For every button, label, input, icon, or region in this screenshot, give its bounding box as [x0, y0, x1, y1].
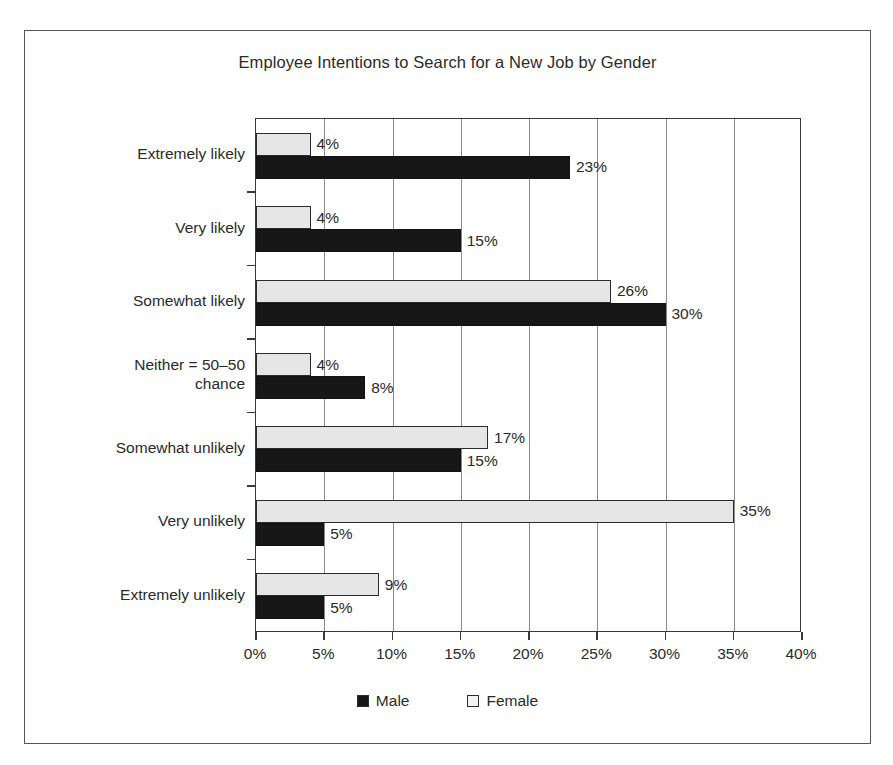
legend-swatch-icon: [467, 695, 479, 707]
gridline: [393, 119, 394, 631]
y-axis-category-label: Extremely likely: [30, 145, 245, 164]
bar-value-label-female: 4%: [317, 357, 339, 373]
bar-female: [256, 206, 311, 229]
x-axis-tick: [392, 632, 394, 640]
y-axis-tick: [247, 485, 255, 487]
chart-figure: Employee Intentions to Search for a New …: [0, 0, 893, 765]
x-axis-ticks: [255, 632, 801, 642]
y-axis-category-label: Extremely unlikely: [30, 586, 245, 605]
x-axis-tick: [528, 632, 530, 640]
x-axis-tick-label: 35%: [717, 645, 748, 663]
legend-label: Male: [376, 692, 410, 710]
bar-male: [256, 229, 461, 252]
bar-value-label-female: 4%: [317, 210, 339, 226]
bar-value-label-female: 26%: [617, 283, 648, 299]
bar-female: [256, 133, 311, 156]
bar-value-label-female: 35%: [740, 503, 771, 519]
bar-value-label-male: 8%: [371, 380, 393, 396]
y-axis-category-label: Somewhat unlikely: [30, 439, 245, 458]
x-axis-tick-label: 0%: [244, 645, 266, 663]
gridline: [597, 119, 598, 631]
x-axis-tick-label: 40%: [785, 645, 816, 663]
y-axis-tick: [247, 265, 255, 267]
plot-area: 4%23%4%15%26%30%4%8%17%15%35%5%9%5%: [255, 118, 801, 632]
y-axis-ticks: [255, 118, 256, 632]
y-axis-category-label: Somewhat likely: [30, 292, 245, 311]
bar-male: [256, 376, 365, 399]
x-axis-tick-labels: 0%5%10%15%20%25%30%35%40%: [255, 645, 801, 669]
bar-female: [256, 573, 379, 596]
x-axis-tick-label: 30%: [649, 645, 680, 663]
gridline: [324, 119, 325, 631]
y-axis-category-label: Very likely: [30, 219, 245, 238]
bar-male: [256, 156, 570, 179]
bar-value-label-female: 9%: [385, 577, 407, 593]
gridline: [461, 119, 462, 631]
gridline: [666, 119, 667, 631]
legend-label: Female: [486, 692, 538, 710]
bar-value-label-male: 30%: [672, 306, 703, 322]
bar-value-label-female: 4%: [317, 136, 339, 152]
y-axis-category-label: Very unlikely: [30, 512, 245, 531]
bar-value-label-male: 15%: [467, 233, 498, 249]
x-axis-tick: [733, 632, 735, 640]
bar-value-label-male: 15%: [467, 453, 498, 469]
bar-female: [256, 426, 488, 449]
x-axis-tick: [596, 632, 598, 640]
chart-legend: MaleFemale: [24, 688, 871, 714]
bar-value-label-male: 5%: [330, 600, 352, 616]
legend-swatch-icon: [357, 695, 369, 707]
x-axis-tick: [255, 632, 257, 640]
y-axis-category-label: Neither = 50–50chance: [30, 356, 245, 394]
bar-male: [256, 523, 324, 546]
bar-female: [256, 353, 311, 376]
x-axis-tick: [801, 632, 803, 640]
y-axis-category-labels: Extremely likelyVery likelySomewhat like…: [28, 118, 245, 632]
gridline: [734, 119, 735, 631]
y-axis-tick: [247, 559, 255, 561]
x-axis-tick: [460, 632, 462, 640]
bar-value-label-female: 17%: [494, 430, 525, 446]
y-axis-tick: [247, 191, 255, 193]
bar-male: [256, 596, 324, 619]
x-axis-tick: [323, 632, 325, 640]
x-axis-tick-label: 25%: [581, 645, 612, 663]
x-axis-tick-label: 10%: [376, 645, 407, 663]
y-axis-tick: [247, 412, 255, 414]
y-axis-tick: [247, 338, 255, 340]
legend-entry-male[interactable]: Male: [357, 692, 410, 710]
bar-female: [256, 280, 611, 303]
chart-title: Employee Intentions to Search for a New …: [24, 53, 871, 72]
bar-value-label-male: 5%: [330, 526, 352, 542]
bar-value-label-male: 23%: [576, 159, 607, 175]
bar-female: [256, 500, 734, 523]
legend-entry-female[interactable]: Female: [467, 692, 538, 710]
gridline: [529, 119, 530, 631]
x-axis-tick-label: 15%: [444, 645, 475, 663]
bar-male: [256, 303, 666, 326]
bar-male: [256, 449, 461, 472]
x-axis-tick-label: 20%: [512, 645, 543, 663]
x-axis-tick: [665, 632, 667, 640]
x-axis-tick-label: 5%: [312, 645, 334, 663]
